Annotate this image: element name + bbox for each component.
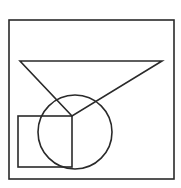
circle xyxy=(38,95,112,169)
inverted-triangle xyxy=(20,61,162,116)
geometry-diagram xyxy=(0,0,181,188)
small-square xyxy=(18,116,72,167)
